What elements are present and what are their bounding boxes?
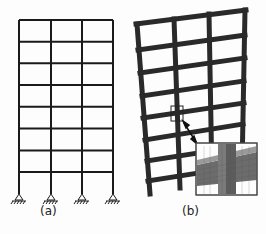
support-icon: [11, 194, 26, 204]
figure-canvas: [0, 0, 266, 234]
panel-label-a: (a): [40, 204, 57, 218]
pinned-supports: [11, 194, 120, 204]
frame-2d: [19, 20, 113, 194]
mesh-detail-inset: [196, 143, 257, 195]
support-icon: [105, 194, 120, 204]
support-icon: [43, 194, 58, 204]
support-icon: [74, 194, 89, 204]
panel-label-b: (b): [182, 204, 199, 218]
